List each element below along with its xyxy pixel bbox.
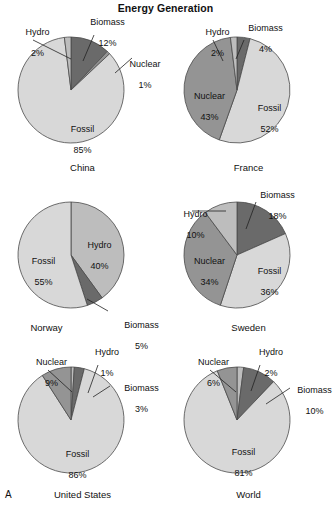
slice-label-fossil: Fossil 55% [6, 245, 66, 298]
slice-label-biomass: Biomass 3% [104, 372, 164, 425]
slice-label-fossil: Fossil 52% [232, 92, 292, 145]
slice-label-nuclear: Nuclear 6% [176, 346, 236, 399]
slice-label-biomass: Biomass 18% [238, 179, 302, 232]
slice-label-hydro: Hydro 10% [158, 198, 218, 251]
slice-label-hydro: Hydro 2% [0, 16, 60, 69]
pie-panel-united-states: Nuclear 9% Hydro 1% Biomass 3% Fossil 86… [0, 348, 165, 508]
pie-panel-sweden: Hydro 10% Biomass 18% Nuclear 34% Fossil… [166, 183, 331, 343]
pie-title-china: China [0, 162, 165, 173]
pie-title-united-states: United States [0, 489, 165, 500]
slice-label-biomass: Biomass 10% [278, 374, 336, 427]
slice-label-hydro: Hydro 40% [62, 229, 122, 282]
slice-label-nuclear: Nuclear 34% [172, 245, 232, 298]
slice-label-fossil: Fossil 86% [40, 438, 100, 491]
pie-title-sweden: Sweden [166, 322, 331, 333]
slice-label-fossil: Fossil 36% [232, 255, 292, 308]
slice-label-nuclear: Nuclear 1% [110, 48, 165, 101]
pie-panel-france: Hydro 2% Biomass 4% Nuclear 43% Fossil 5… [166, 18, 331, 178]
pie-title-norway: Norway [0, 322, 129, 333]
panel-letter-label: A [5, 489, 12, 500]
pie-panel-norway: Hydro 40% Fossil 55% Biomass 5% Norway [0, 183, 165, 343]
slice-label-biomass: Biomass 4% [228, 12, 288, 65]
slice-label-nuclear: Nuclear 9% [14, 346, 74, 399]
pie-panel-china: Hydro 2% Biomass 12% Nuclear 1% Fossil 8… [0, 18, 165, 178]
pie-title-world: World [166, 489, 331, 500]
slice-label-fossil: Fossil 81% [206, 436, 266, 489]
pie-title-france: France [166, 162, 331, 173]
pie-panel-world: Nuclear 6% Hydro 2% Biomass 10% Fossil 8… [166, 348, 331, 508]
slice-label-fossil: Fossil 85% [45, 113, 105, 166]
slice-label-nuclear: Nuclear 43% [172, 80, 232, 133]
